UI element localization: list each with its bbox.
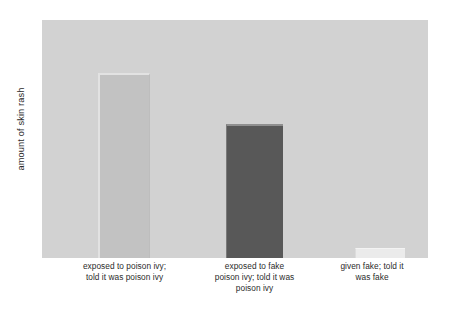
bar-given-fake-told-fake: [355, 248, 405, 258]
x-tick-label-0: exposed to poison ivy; told it was poiso…: [52, 261, 197, 283]
x-axis-tick-labels: exposed to poison ivy; told it was poiso…: [42, 261, 428, 307]
bar-exposed-poison-ivy-told-poison-ivy: [98, 73, 150, 258]
bar-chart-figure: amount of skin rash exposed to poison iv…: [0, 0, 449, 309]
x-tick-label-2: given fake; told it was fake: [317, 261, 427, 283]
y-axis-title-container: amount of skin rash: [0, 0, 42, 258]
x-tick-label-2-line-0: given fake; told it: [317, 261, 427, 272]
x-tick-label-1: exposed to fake poison ivy; told it was …: [182, 261, 327, 295]
x-tick-label-1-line-0: exposed to fake: [182, 261, 327, 272]
bar-exposed-fake-told-poison-ivy: [226, 124, 283, 258]
x-tick-label-2-line-1: was fake: [317, 272, 427, 283]
x-tick-label-0-line-1: told it was poison ivy: [52, 272, 197, 283]
plot-area: [42, 20, 428, 258]
x-tick-label-1-line-1: poison ivy; told it was: [182, 272, 327, 283]
x-tick-label-0-line-0: exposed to poison ivy;: [52, 261, 197, 272]
x-tick-label-1-line-2: poison ivy: [182, 283, 327, 294]
y-axis-title: amount of skin rash: [16, 87, 26, 170]
